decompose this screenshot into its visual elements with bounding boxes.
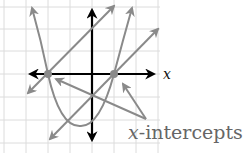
x-axis-label: x (163, 66, 171, 82)
x-intercepts-diagram: x x-intercepts (0, 0, 246, 153)
left-x-intercept-point (44, 70, 52, 78)
right-x-intercept-point (110, 70, 118, 78)
parabola-curve (32, 8, 132, 126)
x-intercepts-label-rest: -intercepts (139, 121, 243, 143)
x-intercepts-label-italic: x (128, 121, 139, 143)
x-intercepts-label: x-intercepts (128, 121, 243, 143)
line-through-left-intercept (28, 6, 114, 93)
